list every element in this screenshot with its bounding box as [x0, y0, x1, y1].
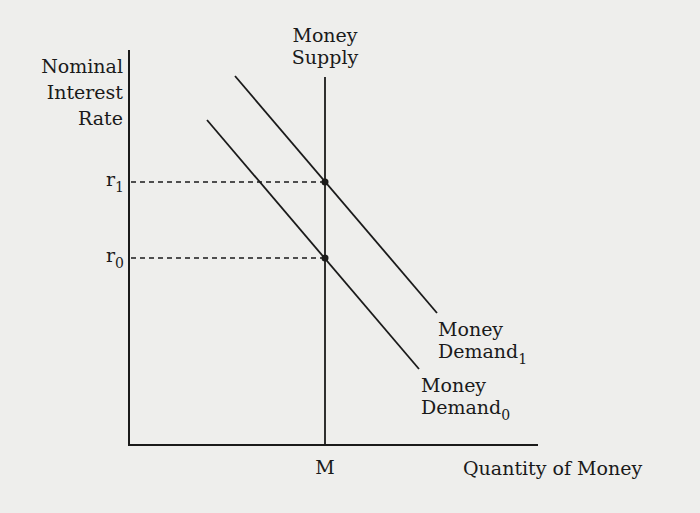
y-axis-label-line-3: Rate: [41, 107, 123, 129]
y-axis-label: Nominal Interest Rate: [41, 55, 123, 129]
money-supply-label: Money Supply: [285, 24, 365, 68]
money-demand-0-line: [207, 120, 419, 369]
r0-label: r0: [106, 244, 124, 266]
y-axis-label-line-2: Interest: [41, 81, 123, 103]
equilibrium-point-1: [322, 179, 329, 186]
y-axis-label-line-1: Nominal: [41, 55, 123, 77]
money-supply-label-line-2: Supply: [285, 46, 365, 68]
x-axis-label: Quantity of Money: [463, 457, 642, 479]
money-market-diagram: Nominal Interest Rate Money Supply r1 r0…: [0, 0, 700, 513]
money-demand-1-line: [235, 76, 437, 313]
money-quantity-m-label: M: [310, 456, 340, 478]
money-supply-label-line-1: Money: [285, 24, 365, 46]
equilibrium-point-0: [322, 255, 329, 262]
money-demand-0-label: Money Demand0: [421, 374, 510, 418]
money-demand-1-label: Money Demand1: [438, 318, 527, 362]
r1-label: r1: [106, 168, 124, 190]
